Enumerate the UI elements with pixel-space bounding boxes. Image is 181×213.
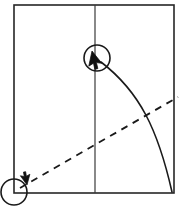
diagram-canvas — [0, 0, 181, 213]
diagram-svg — [0, 0, 181, 213]
